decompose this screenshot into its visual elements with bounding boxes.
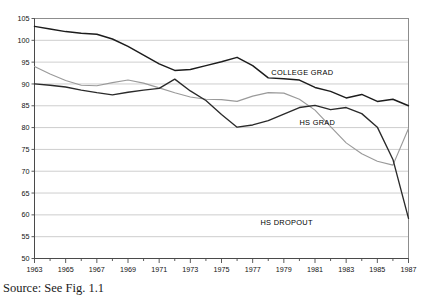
svg-text:1967: 1967 bbox=[89, 265, 105, 274]
svg-text:1963: 1963 bbox=[27, 265, 43, 274]
series-paths-group bbox=[35, 26, 409, 218]
svg-text:105: 105 bbox=[18, 14, 30, 23]
series-label-college-grad: COLLEGE GRAD bbox=[271, 68, 333, 77]
line-chart: 50556065707580859095100105 1963196519671… bbox=[0, 0, 422, 280]
svg-text:1973: 1973 bbox=[182, 265, 198, 274]
svg-text:60: 60 bbox=[22, 210, 30, 219]
svg-text:1981: 1981 bbox=[307, 265, 323, 274]
y-axis-ticks: 50556065707580859095100105 bbox=[18, 14, 35, 263]
svg-text:80: 80 bbox=[22, 123, 30, 132]
svg-text:1969: 1969 bbox=[120, 265, 136, 274]
svg-text:95: 95 bbox=[22, 58, 30, 67]
svg-text:1971: 1971 bbox=[151, 265, 167, 274]
series-line-college-grad bbox=[35, 26, 409, 105]
series-labels-group: COLLEGE GRADHS GRADHS DROPOUT bbox=[260, 68, 335, 227]
svg-text:1987: 1987 bbox=[401, 265, 417, 274]
svg-text:85: 85 bbox=[22, 101, 30, 110]
svg-text:1979: 1979 bbox=[276, 265, 292, 274]
series-line-hs-grad bbox=[35, 67, 409, 166]
svg-text:1975: 1975 bbox=[214, 265, 230, 274]
svg-text:50: 50 bbox=[22, 254, 30, 263]
series-label-hs-grad: HS GRAD bbox=[299, 118, 335, 127]
svg-text:1965: 1965 bbox=[58, 265, 74, 274]
series-label-hs-dropout: HS DROPOUT bbox=[260, 218, 312, 227]
svg-text:1977: 1977 bbox=[245, 265, 261, 274]
svg-text:1985: 1985 bbox=[369, 265, 385, 274]
svg-text:70: 70 bbox=[22, 167, 30, 176]
svg-text:65: 65 bbox=[22, 189, 30, 198]
x-axis-ticks: 1963196519671969197119731975197719791981… bbox=[27, 259, 417, 274]
gridlines-group bbox=[35, 19, 409, 237]
svg-text:90: 90 bbox=[22, 80, 30, 89]
svg-text:100: 100 bbox=[18, 36, 30, 45]
svg-text:75: 75 bbox=[22, 145, 30, 154]
svg-text:55: 55 bbox=[22, 232, 30, 241]
source-note: Source: See Fig. 1.1 bbox=[3, 281, 104, 296]
svg-text:1983: 1983 bbox=[338, 265, 354, 274]
plot-frame bbox=[35, 19, 409, 259]
figure-container: 50556065707580859095100105 1963196519671… bbox=[0, 0, 422, 302]
